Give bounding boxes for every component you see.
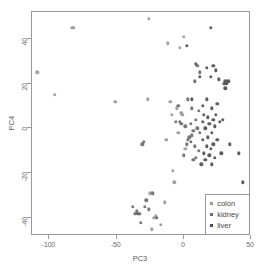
data-point [216, 138, 219, 141]
data-point [210, 163, 213, 166]
data-point [182, 35, 185, 38]
data-point [53, 93, 56, 96]
data-point [205, 66, 208, 69]
data-point [221, 118, 224, 121]
legend-item-kidney[interactable]: kidney [210, 209, 249, 220]
data-point [205, 98, 208, 101]
data-point [212, 118, 215, 121]
data-point [193, 80, 196, 83]
data-point [36, 71, 39, 74]
legend-item-label: colon [217, 200, 235, 208]
data-point [146, 98, 149, 101]
x-axis-tick [48, 235, 49, 239]
y-axis-tick-label: -20 [21, 172, 28, 182]
data-point [114, 100, 117, 103]
data-point [201, 104, 204, 107]
data-point [214, 69, 217, 72]
data-point [151, 192, 154, 195]
data-point [214, 113, 217, 116]
legend-item-label: kidney [217, 211, 239, 219]
legend-item-label: liver [217, 222, 231, 230]
data-point [165, 138, 168, 141]
data-point [182, 154, 185, 157]
x-axis-tick [116, 235, 117, 239]
data-point [209, 75, 212, 78]
data-point [190, 107, 193, 110]
data-point [206, 136, 209, 139]
data-point [228, 142, 231, 145]
data-point [197, 109, 200, 112]
data-point [185, 142, 188, 145]
data-point [213, 125, 216, 128]
data-point [198, 75, 201, 78]
data-point [194, 156, 197, 159]
data-point [186, 98, 189, 101]
data-point [216, 102, 219, 105]
y-axis-tick-label: 0 [21, 127, 28, 131]
legend-swatch-icon [210, 213, 213, 216]
data-point [178, 46, 181, 49]
scatter-plot-figure: -100-5005040200-20-40 PC3 PC4 colonkidne… [0, 0, 274, 272]
data-point [208, 122, 211, 125]
data-point [179, 122, 182, 125]
y-axis-tick [27, 38, 31, 39]
data-point [170, 113, 173, 116]
data-point [210, 131, 213, 134]
data-point [192, 129, 195, 132]
data-point [144, 198, 147, 201]
data-point [205, 145, 208, 148]
data-point [224, 86, 227, 89]
data-point [197, 149, 200, 152]
data-point [147, 17, 150, 20]
data-point [202, 151, 205, 154]
data-point [226, 80, 229, 83]
data-point [183, 147, 186, 150]
data-point [200, 163, 203, 166]
data-point [204, 127, 207, 130]
x-axis-tick [183, 235, 184, 239]
data-point [217, 77, 220, 80]
data-point [189, 140, 192, 143]
data-point [202, 113, 205, 116]
data-point [72, 26, 75, 29]
data-point [163, 201, 166, 204]
data-point [208, 154, 211, 157]
data-point [155, 216, 158, 219]
data-point [169, 100, 172, 103]
legend-swatch-icon [210, 202, 213, 205]
data-point [185, 44, 188, 47]
legend-swatch-icon [210, 224, 213, 227]
legend-item-liver[interactable]: liver [210, 220, 249, 231]
data-point [198, 131, 201, 134]
data-point [142, 140, 145, 143]
data-point [189, 122, 192, 125]
data-point [213, 156, 216, 159]
data-point [201, 120, 204, 123]
data-point [198, 71, 201, 74]
y-axis-tick-label: -40 [21, 217, 28, 227]
y-axis-tick-label: 20 [21, 83, 28, 90]
data-point [166, 42, 169, 45]
data-point [147, 207, 150, 210]
data-point [173, 181, 176, 184]
data-point [212, 64, 215, 67]
data-point [171, 169, 174, 172]
data-point [193, 145, 196, 148]
data-point [201, 138, 204, 141]
data-point [212, 142, 215, 145]
x-axis-tick-label: 50 [246, 241, 253, 248]
data-point [210, 107, 213, 110]
data-point [183, 125, 186, 128]
data-point [177, 104, 180, 107]
data-point [131, 205, 134, 208]
legend-item-colon[interactable]: colon [210, 198, 249, 209]
data-point [220, 151, 223, 154]
x-axis-tick-label: 0 [181, 241, 185, 248]
data-point [209, 147, 212, 150]
y-axis-tick [27, 172, 31, 173]
data-point [139, 221, 142, 224]
legend[interactable]: colonkidneyliver [205, 194, 250, 235]
data-point [190, 98, 193, 101]
data-point [177, 131, 180, 134]
data-point [209, 26, 212, 29]
